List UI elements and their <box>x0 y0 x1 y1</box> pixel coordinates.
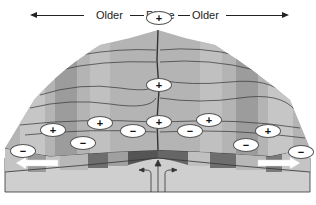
reversed-polarity-marker: − <box>233 138 259 152</box>
reversed-polarity-marker: − <box>10 144 36 158</box>
ridge-surface <box>0 25 316 165</box>
normal-polarity-marker: + <box>146 78 172 92</box>
normal-polarity-marker: + <box>255 124 281 138</box>
normal-polarity-marker: + <box>40 123 66 137</box>
seafloor-block-diagram <box>0 0 316 205</box>
normal-polarity-marker: + <box>146 11 172 25</box>
reversed-polarity-marker: − <box>70 136 96 150</box>
normal-polarity-marker: + <box>146 115 172 129</box>
reversed-polarity-marker: − <box>288 145 314 159</box>
normal-polarity-marker: + <box>87 116 113 130</box>
reversed-polarity-marker: − <box>177 124 203 138</box>
reversed-polarity-marker: − <box>120 124 146 138</box>
normal-polarity-marker: + <box>196 113 222 127</box>
